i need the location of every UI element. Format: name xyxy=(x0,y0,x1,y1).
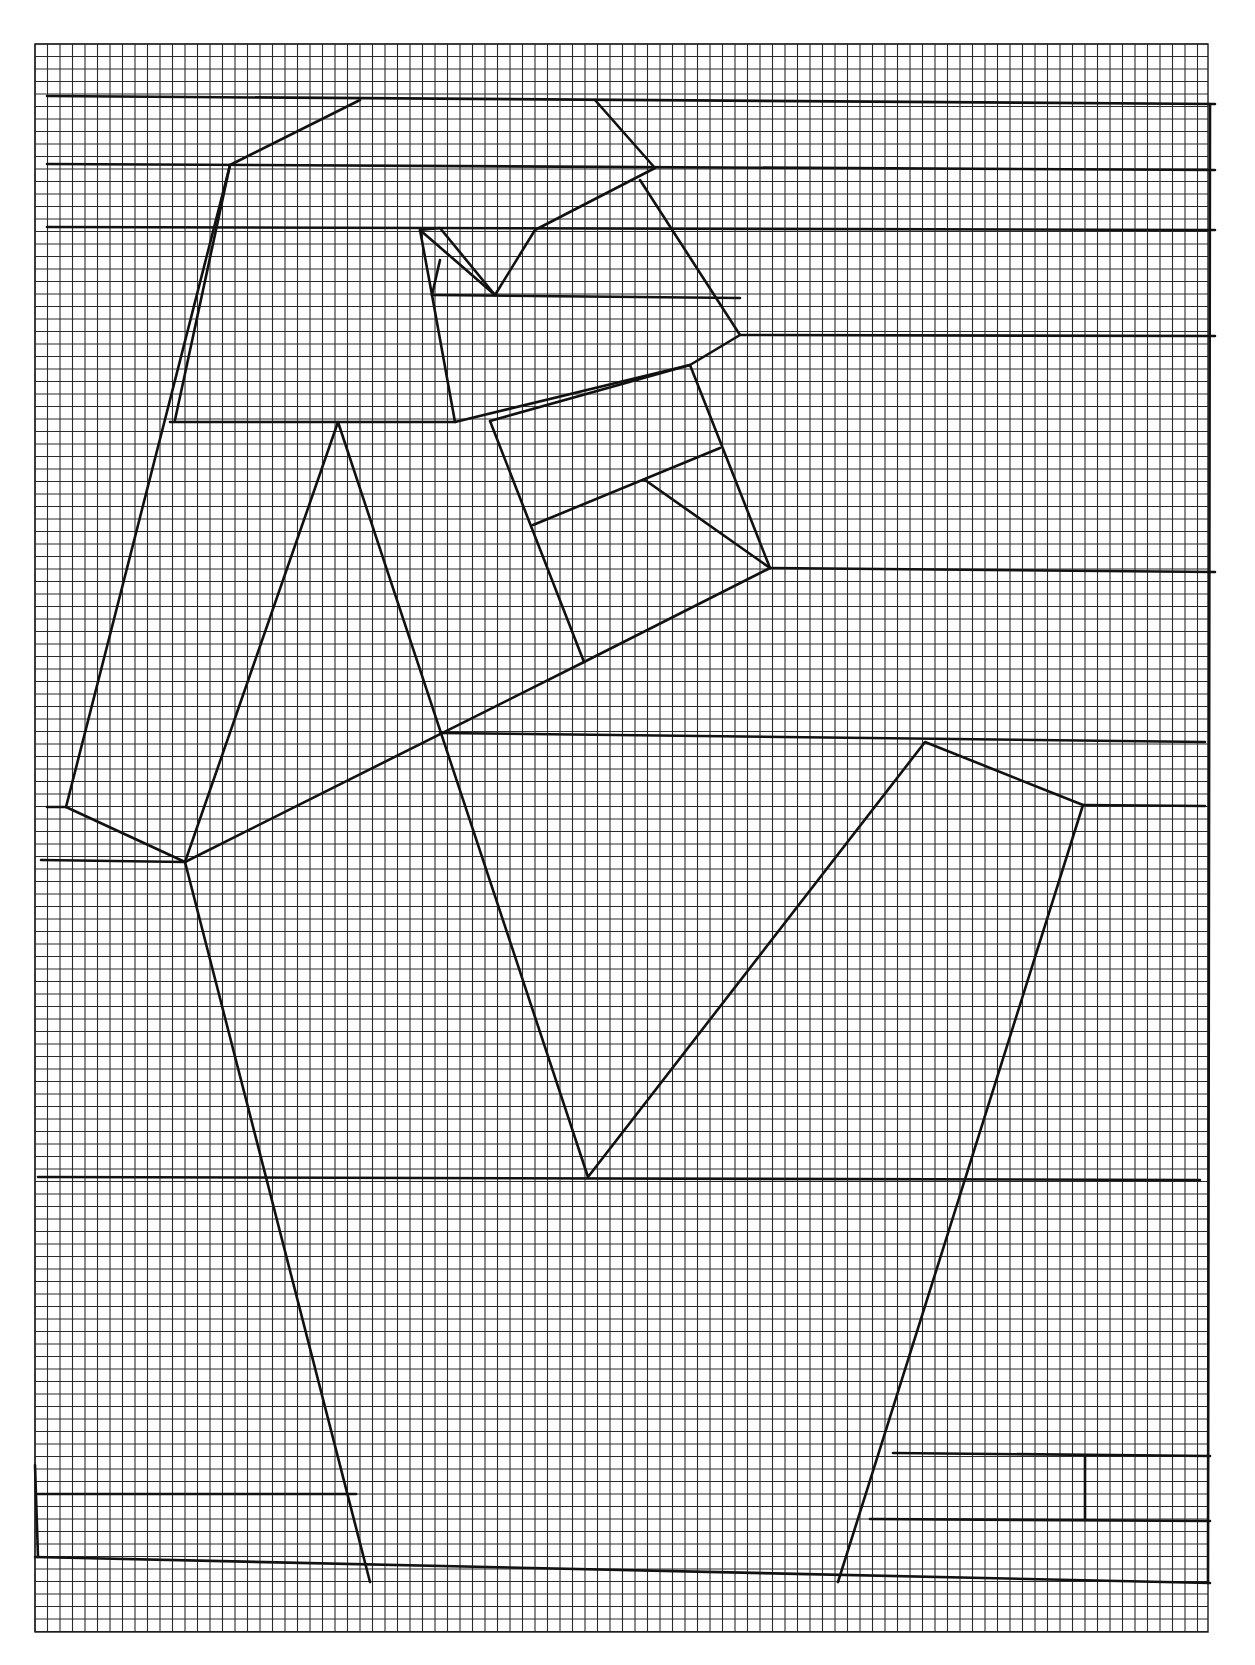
figure-line xyxy=(740,335,1215,336)
figure-line xyxy=(1083,805,1205,806)
grid-drawing xyxy=(0,0,1255,1665)
paper-background xyxy=(0,0,1255,1665)
